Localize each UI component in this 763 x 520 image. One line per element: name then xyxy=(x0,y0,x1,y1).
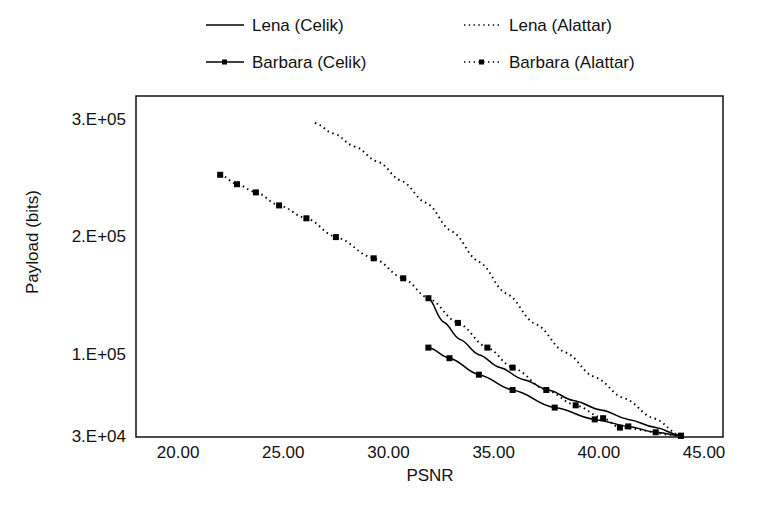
series-marker-3 xyxy=(543,387,549,393)
series-marker-3 xyxy=(617,425,623,431)
series-marker-3 xyxy=(234,181,240,187)
series-marker-3 xyxy=(333,234,339,240)
series-line-3 xyxy=(220,175,681,436)
series-marker-2 xyxy=(592,416,598,422)
series-marker-2 xyxy=(425,345,431,351)
series-marker-3 xyxy=(303,215,309,221)
series-marker-3 xyxy=(484,345,490,351)
series-marker-3 xyxy=(510,365,516,371)
series-marker-2 xyxy=(476,372,482,378)
chart-figure: Lena (Celik) Lena (Alattar) Barbara (Cel… xyxy=(0,0,763,520)
series-line-0 xyxy=(428,298,681,436)
series-line-1 xyxy=(315,123,681,436)
series-marker-3 xyxy=(253,189,259,195)
series-marker-3 xyxy=(455,320,461,326)
series-marker-2 xyxy=(447,355,453,361)
series-marker-3 xyxy=(573,402,579,408)
series-marker-3 xyxy=(371,255,377,261)
series-marker-2 xyxy=(510,387,516,393)
plot-frame xyxy=(136,96,723,437)
series-marker-3 xyxy=(678,433,684,439)
series-marker-3 xyxy=(600,415,606,421)
series-marker-3 xyxy=(276,202,282,208)
series-marker-2 xyxy=(552,405,558,411)
plot-area xyxy=(0,0,763,520)
series-marker-3 xyxy=(425,295,431,301)
series-marker-3 xyxy=(400,275,406,281)
series-marker-3 xyxy=(217,172,223,178)
